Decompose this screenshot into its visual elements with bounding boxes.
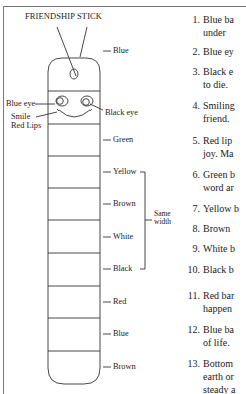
blue-eye-outer [56, 96, 68, 106]
band-label-red: Red [113, 297, 126, 307]
black-eye-inner [83, 99, 90, 106]
band-label-black: Black [113, 264, 132, 274]
smile-mouth [59, 110, 90, 117]
label-red-lips: Red Lips [11, 121, 41, 131]
band-label-blue-top: Blue [113, 46, 129, 56]
band-label-brown: Brown [113, 199, 136, 209]
label-blue-eye: Blue eye [6, 99, 35, 109]
label-black-eye: Black eye [105, 108, 138, 118]
bracket-label-width: width [154, 218, 171, 226]
band-label-yellow: Yellow [113, 167, 137, 177]
blue-eye-inner [57, 98, 64, 105]
band-label-blue-bottom: Blue [113, 329, 129, 339]
stick-body [48, 58, 100, 384]
band-label-brown-bottom: Brown [113, 362, 136, 372]
band-label-white: White [113, 232, 133, 242]
string-right [80, 27, 87, 57]
band-label-green: Green [113, 135, 133, 145]
same-width-bracket [140, 172, 145, 269]
